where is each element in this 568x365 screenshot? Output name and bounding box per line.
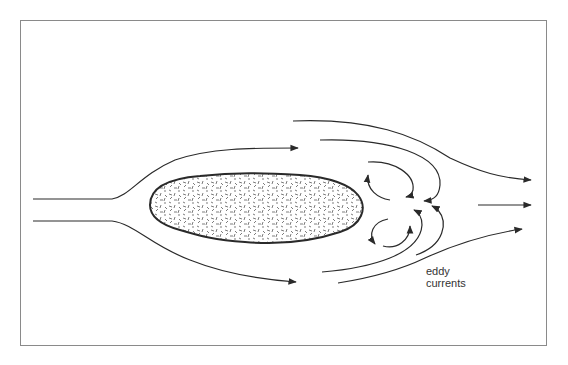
eddy-currents-label: eddy currents — [426, 265, 466, 289]
eddy-upper-inward — [368, 162, 413, 197]
eddy-lower-left — [372, 219, 388, 244]
eddy-upper-outward — [368, 175, 390, 200]
streamline-outer-upper — [293, 121, 531, 180]
eddy-label-line2: currents — [426, 277, 466, 289]
wake-curve-lower-outer — [416, 206, 443, 255]
eddy-lower-up — [383, 226, 410, 247]
flow-diagram — [0, 0, 568, 365]
eddy-label-line1: eddy — [426, 265, 466, 277]
obstacle-body — [150, 173, 363, 243]
